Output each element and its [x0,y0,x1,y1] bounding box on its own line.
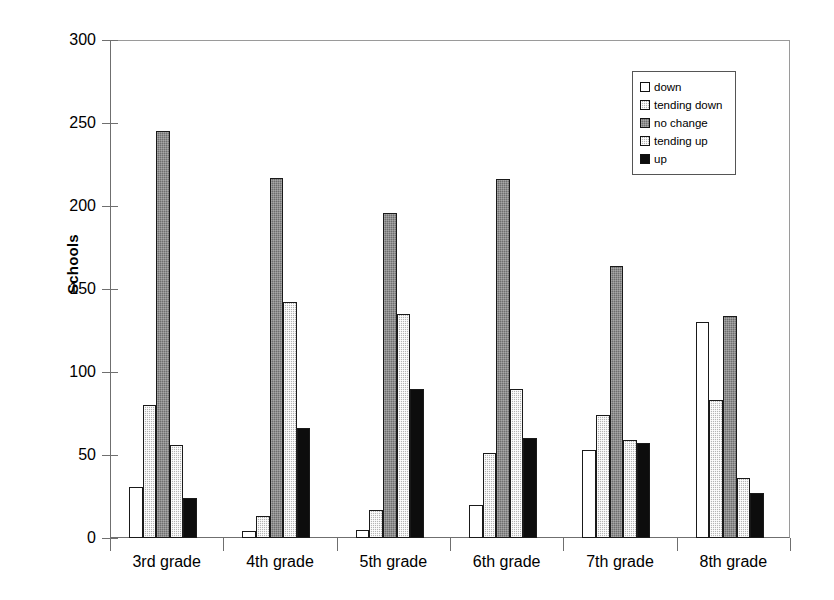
bar [496,179,510,538]
y-axis-tick-label: 250 [40,114,96,132]
x-axis-tick [563,538,564,551]
legend-swatch-icon [640,82,650,92]
bar [383,213,397,538]
bar [637,443,651,538]
legend-item: tending down [640,96,728,113]
bar [510,389,524,538]
bar [297,428,311,538]
bar [256,516,270,538]
bar [156,131,170,538]
bar-chart: Schools 050100150200250300 3rd grade4th … [0,0,834,600]
y-axis-tick [102,123,118,124]
bar [750,493,764,538]
bar [610,266,624,538]
legend-item-label: no change [654,117,708,129]
legend-item: no change [640,114,728,131]
x-axis-tick [223,538,224,551]
y-axis-tick [102,289,118,290]
bar [723,316,737,538]
legend-item-label: up [654,153,667,165]
y-axis-title: Schools [64,204,88,324]
legend-item: tending up [640,132,728,149]
bar [410,389,424,538]
bar [623,440,637,538]
bar [356,530,370,538]
x-axis-group-label: 8th grade [663,553,803,571]
chart-legend: downtending downno changetending upup [632,71,736,175]
x-axis-tick [110,538,111,551]
bar [270,178,284,538]
legend-swatch-icon [640,154,650,164]
bar [596,415,610,538]
x-axis-tick [337,538,338,551]
bar [283,302,297,538]
y-axis-tick-label: 200 [40,197,96,215]
bar [696,322,710,538]
bar [242,531,256,538]
legend-item: down [640,78,728,95]
bar [143,405,157,538]
y-axis-tick-label: 100 [40,363,96,381]
bar [170,445,184,538]
bar [369,510,383,538]
y-axis-tick-label: 0 [40,529,96,547]
bar [483,453,497,538]
y-axis-tick [102,40,118,41]
bar [737,478,751,538]
y-axis-tick [102,372,118,373]
bar [183,498,197,538]
x-axis-tick [450,538,451,551]
y-axis-tick-label: 300 [40,31,96,49]
bar [129,487,143,538]
bar [523,438,537,538]
y-axis-tick-label: 150 [40,280,96,298]
bar [709,400,723,538]
legend-item-label: tending up [654,135,708,147]
legend-swatch-icon [640,118,650,128]
y-axis-tick-label: 50 [40,446,96,464]
legend-swatch-icon [640,136,650,146]
legend-item: up [640,150,728,167]
bar [469,505,483,538]
legend-item-label: down [654,81,682,93]
bar [397,314,411,538]
legend-swatch-icon [640,100,650,110]
y-axis-tick [102,206,118,207]
x-axis-tick [677,538,678,551]
x-axis-tick [790,538,791,551]
y-axis-tick [102,455,118,456]
bar [582,450,596,538]
legend-item-label: tending down [654,99,722,111]
